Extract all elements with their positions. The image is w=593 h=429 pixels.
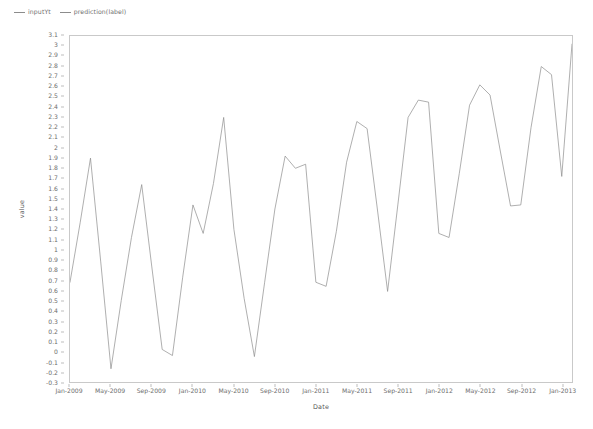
y-tick-label: 2.1 (48, 134, 58, 140)
y-tick-label: 0.3 (48, 319, 58, 325)
y-tick-mark (61, 96, 64, 97)
x-tick-mark (357, 384, 358, 387)
y-tick-mark (61, 209, 64, 210)
x-tick-mark (480, 384, 481, 387)
y-tick-mark (61, 45, 64, 46)
x-tick-mark (521, 384, 522, 387)
y-tick-mark (61, 321, 64, 322)
plot-area (69, 35, 573, 383)
legend-label-prediction: prediction(label) (74, 9, 127, 15)
y-tick-mark (61, 116, 64, 117)
y-tick-mark (61, 352, 64, 353)
y-tick-label: 1 (54, 247, 58, 253)
x-tick-label: Jan-2010 (179, 388, 206, 394)
y-tick-label: 1.9 (48, 155, 58, 161)
y-tick-label: 1.7 (48, 175, 58, 181)
x-axis-title: Date (69, 403, 573, 411)
x-tick-label: Jan-2011 (302, 388, 329, 394)
y-tick-mark (61, 342, 64, 343)
x-tick-label: May-2009 (95, 388, 125, 394)
y-tick-mark (61, 157, 64, 158)
y-tick-mark (61, 280, 64, 281)
y-tick-mark (61, 35, 64, 36)
series-line-inputyt (70, 44, 572, 369)
legend-entry-prediction[interactable]: prediction(label) (60, 9, 127, 15)
x-tick-label: Jan-2009 (55, 388, 82, 394)
line-series-svg (70, 36, 572, 382)
y-tick-mark (61, 229, 64, 230)
y-tick-label: 2.6 (48, 83, 58, 89)
x-tick-label: Sep-2012 (507, 388, 536, 394)
y-tick-label: 2.5 (48, 93, 58, 99)
y-tick-label: 3 (54, 42, 58, 48)
y-tick-mark (61, 311, 64, 312)
x-tick-mark (192, 384, 193, 387)
y-tick-label: 2.2 (48, 124, 58, 130)
y-tick-mark (61, 301, 64, 302)
y-tick-mark (61, 106, 64, 107)
y-tick-label: 2.4 (48, 104, 58, 110)
y-tick-mark (61, 198, 64, 199)
legend-swatch-icon (14, 12, 25, 13)
y-tick-label: 3.1 (48, 32, 58, 38)
y-tick-label: 0.6 (48, 288, 58, 294)
y-tick-label: 1.6 (48, 185, 58, 191)
y-tick-label: 1.1 (48, 237, 58, 243)
x-tick-label: May-2012 (465, 388, 495, 394)
chart-container: inputYt prediction(label) value -0.3-0.2… (0, 0, 593, 429)
x-tick-mark (315, 384, 316, 387)
x-tick-mark (233, 384, 234, 387)
y-tick-label: 1.8 (48, 165, 58, 171)
y-tick-mark (61, 290, 64, 291)
y-tick-mark (61, 372, 64, 373)
x-tick-label: Jan-2012 (426, 388, 453, 394)
x-tick-mark (69, 384, 70, 387)
x-tick-label: Sep-2009 (137, 388, 166, 394)
y-tick-label: 2.7 (48, 73, 58, 79)
y-tick-mark (61, 168, 64, 169)
y-tick-label: 2.9 (48, 52, 58, 58)
y-tick-mark (61, 270, 64, 271)
y-tick-mark (61, 86, 64, 87)
legend-swatch-icon (60, 12, 71, 13)
y-tick-mark (61, 249, 64, 250)
y-tick-label: 1.2 (48, 226, 58, 232)
legend-entry-inputyt[interactable]: inputYt (14, 9, 51, 15)
y-tick-label: 2 (54, 145, 58, 151)
y-tick-mark (61, 75, 64, 76)
legend-label-inputyt: inputYt (28, 9, 51, 15)
x-axis-ticks: Jan-2009May-2009Sep-2009Jan-2010May-2010… (69, 384, 573, 398)
y-tick-mark (61, 127, 64, 128)
y-tick-label: 1.3 (48, 216, 58, 222)
x-tick-label: Jan-2013 (549, 388, 576, 394)
y-tick-label: 0 (54, 349, 58, 355)
y-tick-mark (61, 137, 64, 138)
y-tick-mark (61, 147, 64, 148)
x-tick-label: Sep-2010 (260, 388, 289, 394)
y-tick-label: 0.7 (48, 278, 58, 284)
y-tick-mark (61, 219, 64, 220)
x-tick-mark (110, 384, 111, 387)
x-tick-mark (562, 384, 563, 387)
chart-legend: inputYt prediction(label) (14, 9, 126, 15)
y-tick-label: 0.1 (48, 339, 58, 345)
x-tick-label: May-2011 (342, 388, 372, 394)
y-tick-mark (61, 188, 64, 189)
y-tick-label: -0.1 (46, 359, 58, 365)
y-tick-label: 0.8 (48, 267, 58, 273)
y-tick-label: 1.4 (48, 206, 58, 212)
y-tick-label: -0.3 (46, 380, 58, 386)
y-tick-label: -0.2 (46, 370, 58, 376)
y-tick-mark (61, 260, 64, 261)
x-tick-label: May-2010 (218, 388, 248, 394)
y-tick-mark (61, 362, 64, 363)
x-tick-mark (274, 384, 275, 387)
y-tick-label: 0.5 (48, 298, 58, 304)
y-tick-mark (61, 331, 64, 332)
y-axis-ticks: -0.3-0.2-0.100.10.20.30.40.50.60.70.80.9… (0, 35, 64, 383)
y-tick-label: 0.9 (48, 257, 58, 263)
y-tick-mark (61, 383, 64, 384)
x-tick-mark (151, 384, 152, 387)
x-tick-mark (398, 384, 399, 387)
y-tick-mark (61, 65, 64, 66)
